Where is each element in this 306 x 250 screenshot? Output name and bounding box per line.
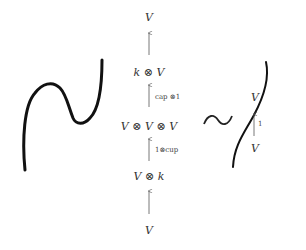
- right-node-bottom-v: V: [251, 142, 259, 155]
- zigzag-string-curve: [24, 60, 102, 170]
- node-k-tensor-v: k ⊗ V: [134, 66, 165, 79]
- arrow-label-cap: cap ⊗1: [155, 93, 180, 101]
- node-v-tensor-k: V ⊗ k: [134, 170, 165, 183]
- arrow-label-identity: 1: [258, 120, 262, 128]
- arrow-label-cup: 1⊗cup: [155, 146, 178, 154]
- right-node-top-v: V: [251, 91, 259, 104]
- node-v-v-v: V ⊗ V ⊗ V: [121, 120, 177, 133]
- node-top-v: V: [145, 11, 153, 24]
- node-bottom-v: V: [145, 224, 153, 237]
- equivalence-tilde: [204, 116, 232, 124]
